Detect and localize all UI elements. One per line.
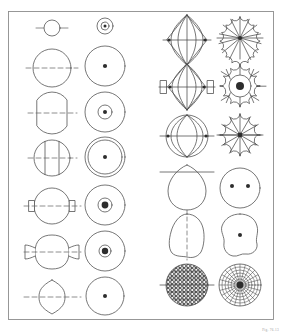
plate-caption: Fig. 76.13 [262, 328, 279, 332]
small-annular-bead-plan [97, 18, 113, 34]
plate-drawing [0, 0, 283, 335]
lattice-textured-bead-plan [219, 264, 261, 306]
bead-typology-plate: Fig. 76.13 [0, 0, 283, 335]
flattened-globular-bead-plan [85, 92, 125, 132]
faceted-barrel-bead-plan [85, 137, 125, 177]
collared-globular-bead-plan [85, 185, 125, 225]
irregular-nodule-plan [222, 214, 258, 256]
lobed-globular-bead-plan [85, 231, 125, 271]
lentoid-bead-plan [86, 277, 124, 315]
teardrop-pendant-plan [220, 168, 260, 208]
globular-bead-plan [85, 46, 125, 86]
